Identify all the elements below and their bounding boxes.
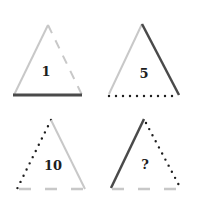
triangle-label: 1 xyxy=(41,64,50,79)
triangle-label: ? xyxy=(141,157,149,172)
side-left-dotted xyxy=(17,120,51,189)
side-right-dark-solid xyxy=(142,24,179,95)
triangle-label: 10 xyxy=(44,158,62,173)
side-right-light-solid xyxy=(51,120,85,189)
triangle-label: 5 xyxy=(139,66,148,81)
side-left-light-solid xyxy=(14,25,48,95)
triangle-puzzle: 1 5 10 ? xyxy=(0,0,204,210)
side-left-dark-solid xyxy=(111,119,144,188)
side-left-light-solid xyxy=(109,24,142,94)
triangle-bottom-right: ? xyxy=(111,119,181,189)
side-right-light-dashed xyxy=(48,25,82,95)
triangle-bottom-left: 10 xyxy=(17,120,86,189)
side-right-dotted xyxy=(146,123,181,189)
triangle-top-right: 5 xyxy=(109,24,179,96)
triangle-top-left: 1 xyxy=(13,25,82,95)
